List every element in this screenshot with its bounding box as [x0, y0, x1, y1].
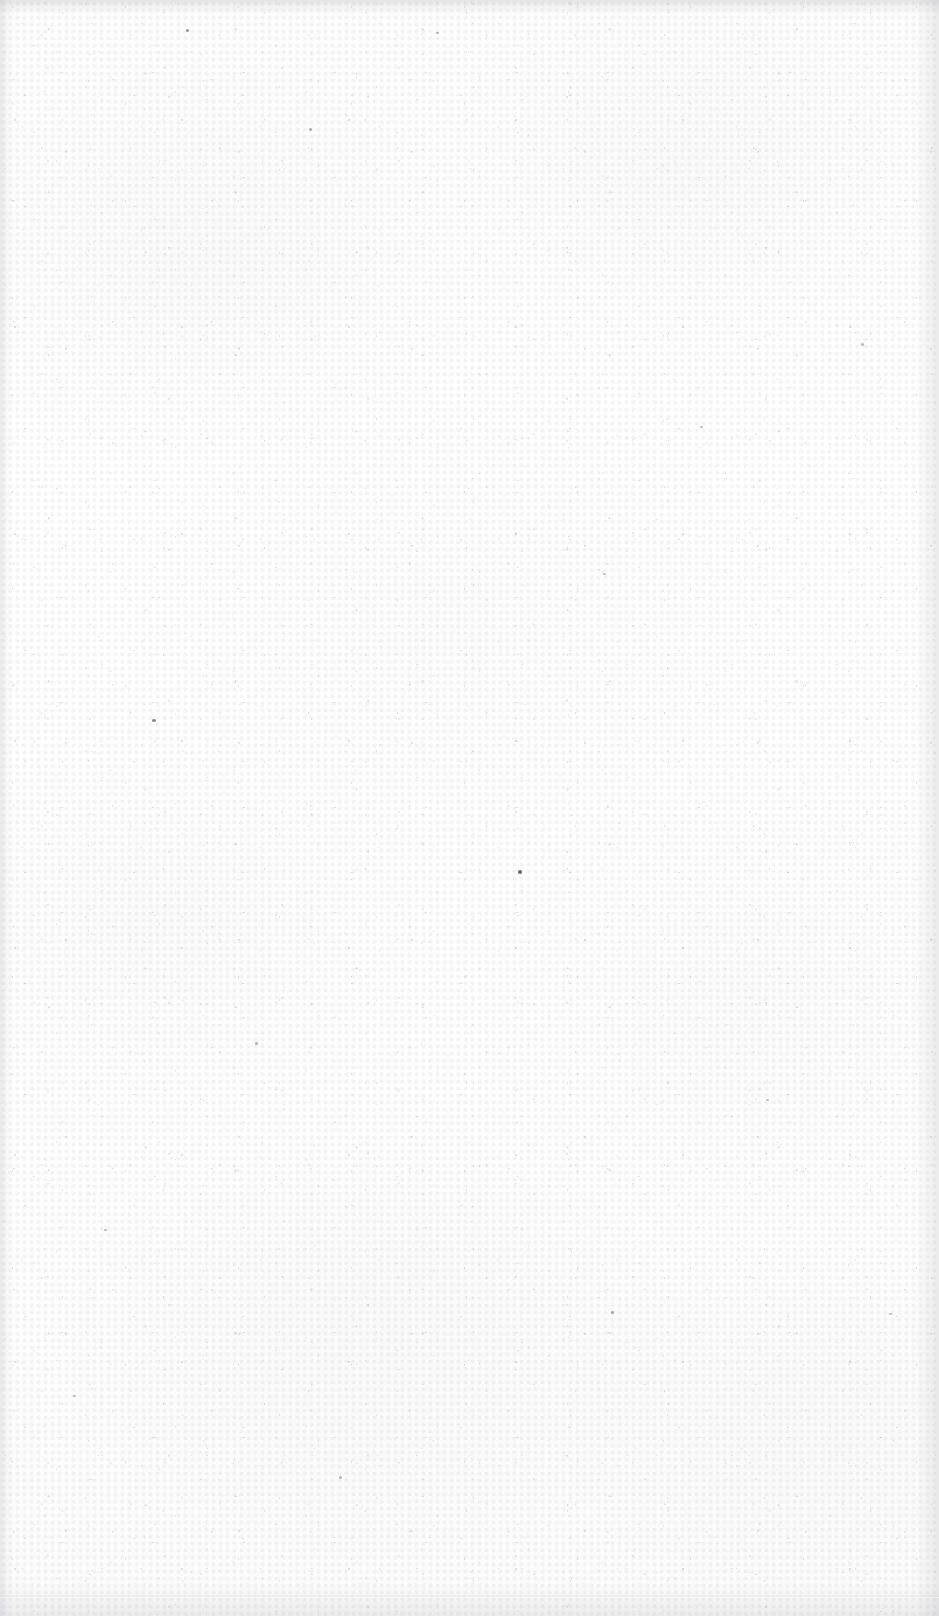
scanned-page — [0, 0, 939, 1616]
page-body-text — [0, 0, 939, 1616]
